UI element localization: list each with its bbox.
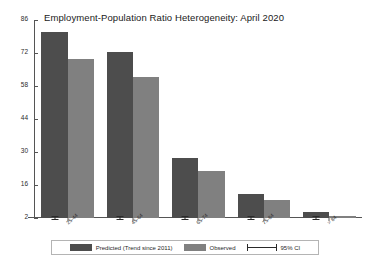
- error-bar-95ci: [119, 216, 120, 221]
- legend-swatch-predicted: [70, 244, 92, 251]
- y-tick-label: 72: [21, 48, 28, 55]
- bar-group: 25-44: [39, 20, 96, 218]
- y-tick-label: 16: [21, 180, 28, 187]
- error-bar-95ci: [250, 216, 251, 221]
- bar-predicted[interactable]: [41, 32, 67, 218]
- bar-predicted[interactable]: [303, 212, 329, 218]
- bar-group: 45-64: [104, 20, 161, 218]
- y-tick-label: 2: [24, 213, 28, 220]
- legend-errorbar-icon: [247, 244, 277, 251]
- bar-group: 75-84: [235, 20, 292, 218]
- y-tick-label: 30: [21, 147, 28, 154]
- legend-label-ci: 95% CI: [281, 245, 301, 251]
- legend-item-ci: 95% CI: [247, 244, 301, 251]
- error-bar-95ci: [316, 216, 317, 220]
- legend-item-observed: Observed: [184, 244, 236, 251]
- y-tick-label: 44: [21, 114, 28, 121]
- bar-group: 65-74: [170, 20, 227, 218]
- plot-area: 2163044587286 25-4445-6465-7475-84> 84: [34, 20, 362, 218]
- error-bar-95ci: [54, 216, 55, 221]
- chart-legend: Predicted (Trend since 2011) Observed 95…: [51, 240, 319, 255]
- bar-predicted[interactable]: [238, 194, 264, 218]
- legend-label-observed: Observed: [210, 245, 236, 251]
- legend-item-predicted: Predicted (Trend since 2011): [70, 244, 173, 251]
- bar-predicted[interactable]: [107, 52, 133, 218]
- bar-observed[interactable]: [198, 171, 224, 218]
- bar-predicted[interactable]: [172, 158, 198, 218]
- error-bar-95ci: [185, 216, 186, 221]
- y-tick-label: 58: [21, 81, 28, 88]
- bar-observed[interactable]: [133, 77, 159, 218]
- bar-group: > 84: [301, 20, 358, 218]
- legend-label-predicted: Predicted (Trend since 2011): [96, 245, 173, 251]
- legend-swatch-observed: [184, 244, 206, 251]
- bar-observed[interactable]: [68, 59, 94, 218]
- bar-groups: 25-4445-6465-7475-84> 84: [35, 20, 362, 218]
- y-tick-label: 86: [21, 15, 28, 22]
- chart-root: Employment-Population Ratio Heterogeneit…: [0, 0, 370, 267]
